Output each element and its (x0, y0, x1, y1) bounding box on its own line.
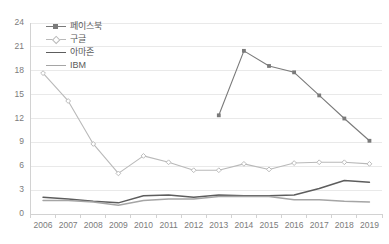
x-tick-label: 2016 (281, 221, 307, 230)
data-point-marker (216, 168, 221, 173)
data-point-marker (267, 64, 271, 68)
y-tick-label: 0 (2, 209, 24, 218)
x-tick-label: 2008 (80, 221, 106, 230)
legend-item-1[interactable]: 페이스북 (46, 20, 132, 33)
series-layer (41, 49, 372, 205)
legend-label: 구글 (66, 33, 86, 46)
data-point-marker (191, 168, 196, 173)
line-chart: 03691215182124 2006200720082009201020112… (0, 0, 389, 244)
x-tick-label: 2006 (30, 221, 56, 230)
legend-label: 아마존 (66, 46, 94, 59)
x-tick-label: 2010 (130, 221, 156, 230)
y-tick-label: 12 (2, 114, 24, 123)
legend-label: IBM (66, 59, 86, 72)
data-point-marker (292, 70, 296, 74)
x-tick-label: 2012 (181, 221, 207, 230)
y-tick-label: 6 (2, 161, 24, 170)
legend-swatch-icon (46, 33, 66, 46)
data-point-marker (342, 117, 346, 121)
y-tick-label: 24 (2, 18, 24, 27)
y-tick-label: 9 (2, 137, 24, 146)
legend-label: 페이스북 (66, 20, 102, 33)
x-tick-label: 2019 (356, 221, 382, 230)
legend-item-4[interactable]: IBM (46, 59, 132, 72)
series-1 (217, 49, 371, 143)
data-point-marker (342, 160, 347, 165)
x-tick-label: 2018 (331, 221, 357, 230)
data-point-marker (317, 94, 321, 98)
data-point-marker (217, 113, 221, 117)
data-point-marker (367, 161, 372, 166)
x-tick-marks (31, 214, 383, 218)
legend-swatch-icon (46, 46, 66, 59)
data-point-marker (242, 161, 247, 166)
data-point-marker (166, 160, 171, 165)
chart-legend: 페이스북구글아마존IBM (46, 20, 132, 72)
x-tick-label: 2013 (206, 221, 232, 230)
y-tick-label: 15 (2, 90, 24, 99)
x-tick-label: 2011 (156, 221, 182, 230)
x-tick-label: 2017 (306, 221, 332, 230)
series-line (219, 51, 370, 141)
data-point-marker (267, 167, 272, 172)
legend-swatch-icon (46, 59, 66, 72)
data-point-marker (242, 49, 246, 53)
legend-item-2[interactable]: 구글 (46, 33, 132, 46)
y-tick-label: 3 (2, 185, 24, 194)
x-tick-label: 2009 (105, 221, 131, 230)
y-tick-label: 18 (2, 66, 24, 75)
legend-swatch-icon (46, 20, 66, 33)
series-line (43, 73, 369, 173)
x-tick-label: 2007 (55, 221, 81, 230)
data-point-marker (292, 161, 297, 166)
x-tick-label: 2015 (256, 221, 282, 230)
data-point-marker (368, 139, 372, 143)
data-point-marker (317, 160, 322, 165)
series-2 (41, 71, 372, 176)
legend-item-3[interactable]: 아마존 (46, 46, 132, 59)
y-tick-label: 21 (2, 42, 24, 51)
x-tick-label: 2014 (231, 221, 257, 230)
